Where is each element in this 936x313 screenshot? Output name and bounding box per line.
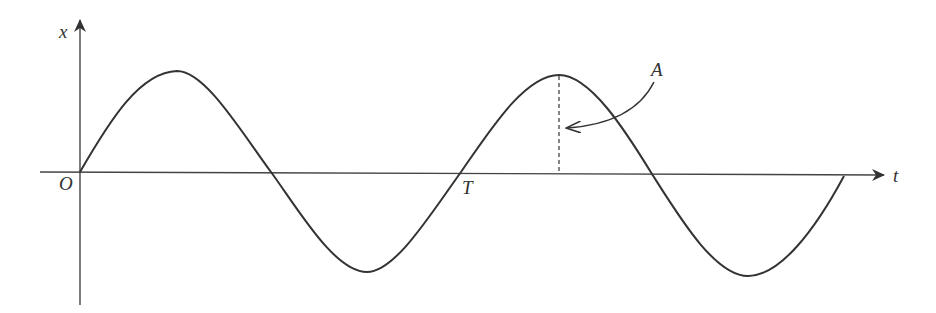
oscillation-diagram: x t O T A: [0, 0, 936, 313]
point-a-label: A: [649, 59, 663, 80]
annotation-arrow: [567, 82, 654, 128]
t-axis-label: t: [893, 165, 899, 186]
origin-label: O: [59, 173, 73, 194]
t-axis: [40, 172, 884, 175]
x-axis-label: x: [58, 21, 68, 42]
period-label: T: [462, 177, 474, 198]
